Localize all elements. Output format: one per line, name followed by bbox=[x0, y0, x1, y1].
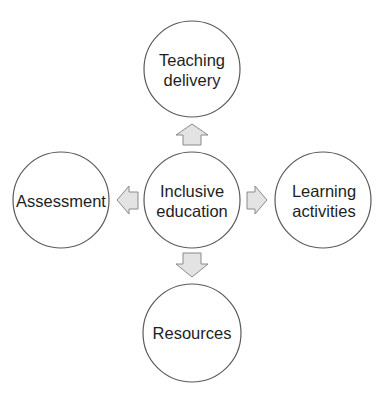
node-label-line: Teaching bbox=[159, 50, 225, 70]
node-label-line: delivery bbox=[164, 70, 221, 90]
node-label-learning-activities: Learning activities bbox=[276, 153, 372, 249]
node-label-line: Assessment bbox=[16, 191, 106, 211]
diagram-canvas: Teaching delivery Inclusive education Le… bbox=[0, 0, 383, 396]
node-label-inclusive-education: Inclusive education bbox=[144, 153, 240, 249]
node-label-line: Resources bbox=[153, 323, 232, 343]
arrow-right-icon bbox=[247, 186, 267, 214]
node-label-line: Inclusive bbox=[160, 181, 224, 201]
node-label-resources: Resources bbox=[144, 285, 240, 381]
arrow-down-icon bbox=[176, 253, 208, 277]
node-label-teaching-delivery: Teaching delivery bbox=[144, 22, 240, 118]
node-label-line: education bbox=[156, 201, 228, 221]
arrow-left-icon bbox=[117, 186, 138, 214]
node-label-assessment: Assessment bbox=[13, 153, 109, 249]
node-label-line: Learning bbox=[292, 181, 356, 201]
arrow-up-icon bbox=[176, 124, 208, 145]
node-label-line: activities bbox=[292, 201, 355, 221]
